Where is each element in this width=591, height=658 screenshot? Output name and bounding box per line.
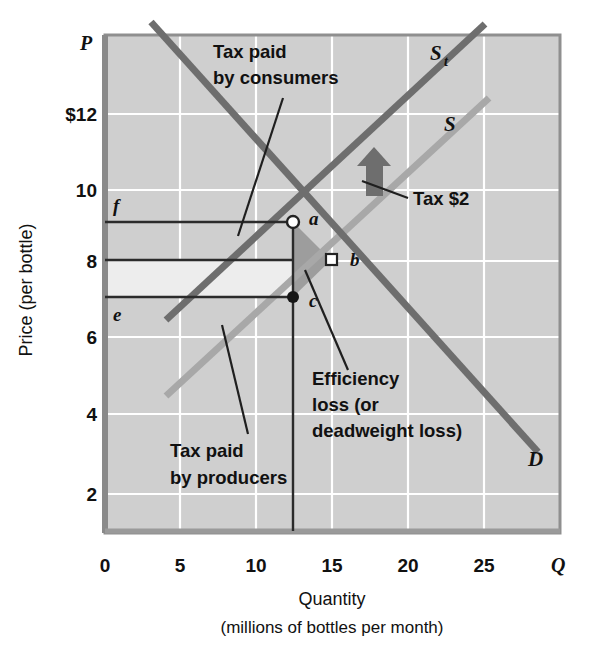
x-tick-25: 25 [473,555,495,576]
x-tick-15: 15 [321,555,343,576]
curve-label-demand: D [527,447,543,471]
y-axis-title: Price (per bottle) [16,223,36,356]
y-tick-4: 4 [86,404,97,425]
tax-producers-line1: Tax paid [170,440,244,461]
x-tick-5: 5 [175,555,186,576]
y-axis-symbol: P [79,32,93,54]
tax-consumers-line2: by consumers [213,67,338,88]
tax-consumers-line1: Tax paid [213,41,287,62]
y-tick-6: 6 [86,327,97,348]
tax-producers-line2: by producers [170,467,287,488]
point-c-label: c [309,290,318,311]
supply-demand-tax-chart: a b c f e S t S D Tax paid by consumers … [0,0,591,658]
point-b-label: b [350,249,360,270]
price-marker-e-label: e [113,304,122,325]
efficiency-loss-line2: loss (or [312,394,379,415]
x-tick-0: 0 [100,555,111,576]
x-axis-title: Quantity [298,589,365,609]
point-b-marker[interactable] [326,254,337,265]
y-tick-8: 8 [86,251,97,272]
x-tick-10: 10 [245,555,266,576]
efficiency-loss-line3: deadweight loss) [312,420,462,441]
curve-label-supply-after-tax: S [430,41,442,65]
x-tick-20: 20 [397,555,418,576]
efficiency-loss-line1: Efficiency [312,368,400,389]
y-tick-10: 10 [76,180,97,201]
curve-label-supply: S [444,112,456,136]
annotation-tax-amount: Tax $2 [413,188,469,209]
point-a-label: a [309,208,319,229]
y-tick-2: 2 [86,484,97,505]
x-axis-symbol: Q [551,554,565,576]
point-a-marker[interactable] [287,216,299,228]
y-tick-12: $12 [65,104,97,125]
point-c-marker[interactable] [287,291,299,303]
x-axis-subtitle: (millions of bottles per month) [221,618,444,637]
